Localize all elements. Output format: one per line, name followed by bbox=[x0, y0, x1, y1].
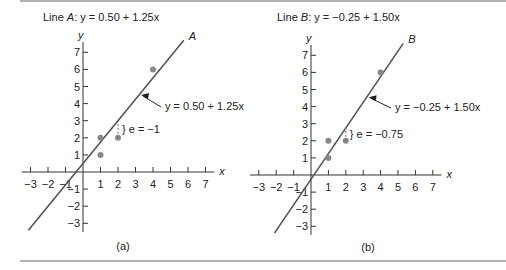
panel-title: Line B: y = −0.25 + 1.50x bbox=[277, 11, 400, 23]
x-tick-label: 4 bbox=[378, 181, 384, 193]
y-tick-label: −3 bbox=[67, 217, 80, 229]
data-point bbox=[325, 138, 331, 144]
line-label: A bbox=[188, 30, 196, 42]
y-tick-label: 2 bbox=[74, 132, 80, 144]
y-tick-label: 3 bbox=[74, 115, 80, 127]
y-tick-label: −2 bbox=[67, 200, 80, 212]
y-tick-label: 5 bbox=[74, 81, 80, 93]
y-tick-label: −3 bbox=[295, 220, 308, 232]
data-point bbox=[98, 135, 104, 141]
panel-title: Line A: y = 0.50 + 1.25x bbox=[43, 11, 160, 23]
y-tick-label: 4 bbox=[302, 101, 308, 113]
panel-caption: (b) bbox=[361, 241, 374, 253]
x-tick-label: 1 bbox=[97, 178, 103, 190]
x-tick-label: 3 bbox=[360, 181, 366, 193]
x-tick-label: 7 bbox=[430, 181, 436, 193]
x-tick-label: −3 bbox=[253, 181, 266, 193]
chart-panel-a: Line A: y = 0.50 + 1.25xxy−3−2−11234567−… bbox=[22, 11, 245, 252]
y-tick-label: 5 bbox=[302, 84, 308, 96]
chart-panel-b: Line B: y = −0.25 + 1.50xxy−3−2−11234567… bbox=[250, 11, 481, 253]
equation-annotation: y = −0.25 + 1.50x bbox=[395, 101, 481, 113]
y-tick-label: 2 bbox=[302, 135, 308, 147]
x-tick-label: 3 bbox=[132, 178, 138, 190]
y-axis-label: y bbox=[77, 29, 85, 41]
data-point bbox=[325, 155, 331, 161]
x-tick-label: −3 bbox=[24, 178, 37, 190]
residual-label: } e = −1 bbox=[122, 123, 160, 135]
data-point bbox=[98, 152, 104, 158]
y-tick-label: −1 bbox=[67, 183, 80, 195]
residual-label: } e = −0.75 bbox=[350, 128, 403, 140]
panel-caption: (a) bbox=[116, 240, 129, 252]
x-tick-label: 5 bbox=[395, 181, 401, 193]
y-tick-label: 3 bbox=[302, 118, 308, 130]
y-tick-label: 7 bbox=[302, 49, 308, 61]
x-tick-label: 5 bbox=[167, 178, 173, 190]
line-label: B bbox=[408, 33, 415, 45]
x-tick-label: −2 bbox=[270, 181, 283, 193]
x-tick-label: 7 bbox=[202, 178, 208, 190]
equation-annotation: y = 0.50 + 1.25x bbox=[165, 100, 244, 112]
fit-line bbox=[28, 40, 183, 230]
x-tick-label: 1 bbox=[325, 181, 331, 193]
y-tick-label: 6 bbox=[74, 63, 80, 75]
x-tick-label: 4 bbox=[150, 178, 156, 190]
y-tick-label: 1 bbox=[74, 149, 80, 161]
regression-figure: Line A: y = 0.50 + 1.25xxy−3−2−11234567−… bbox=[0, 0, 506, 270]
y-tick-label: −2 bbox=[295, 203, 308, 215]
y-tick-label: 7 bbox=[74, 46, 80, 58]
x-axis-label: x bbox=[218, 165, 225, 177]
y-tick-label: 1 bbox=[302, 152, 308, 164]
data-point bbox=[378, 69, 384, 75]
x-axis-label: x bbox=[446, 168, 453, 180]
y-tick-label: 6 bbox=[302, 66, 308, 78]
x-tick-label: 6 bbox=[185, 178, 191, 190]
x-tick-label: 6 bbox=[412, 181, 418, 193]
x-tick-label: 2 bbox=[343, 181, 349, 193]
data-point bbox=[150, 66, 156, 72]
x-tick-label: −2 bbox=[42, 178, 55, 190]
y-tick-label: 4 bbox=[74, 98, 80, 110]
x-tick-label: 2 bbox=[115, 178, 121, 190]
y-axis-label: y bbox=[305, 32, 313, 44]
